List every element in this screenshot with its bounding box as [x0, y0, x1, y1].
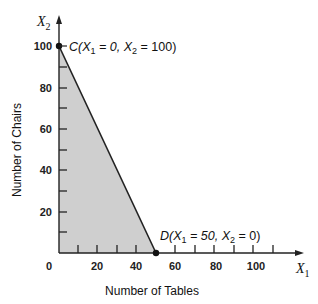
chart: 100 80 60 40 20 0 20 40 60 80 100 X2 X1 … — [0, 0, 318, 304]
point-d-marker — [153, 250, 159, 256]
y-tick-label: 20 — [40, 206, 52, 218]
y-tick-label: 60 — [40, 123, 52, 135]
x-tick-label: 60 — [169, 260, 181, 272]
y-tick-label: 40 — [40, 164, 52, 176]
y-axis-title: Number of Chairs — [10, 103, 24, 197]
x-tick-label: 100 — [247, 260, 265, 272]
point-c-label: C(X1 = 0, X2 = 100) — [69, 40, 176, 56]
y-axis-symbol: X2 — [36, 14, 51, 32]
x-axis-symbol: X1 — [295, 261, 310, 279]
x-tick-label: 20 — [91, 260, 103, 272]
x-tick-label: 40 — [130, 260, 142, 272]
y-axis-arrow-icon — [56, 15, 62, 24]
x-tick-label: 80 — [210, 260, 222, 272]
origin-label: 0 — [46, 260, 52, 272]
y-tick-label: 80 — [40, 82, 52, 94]
x-axis-title: Number of Tables — [105, 284, 199, 298]
x-axis-arrow-icon — [295, 250, 304, 256]
y-tick-label: 100 — [34, 40, 52, 52]
point-d-label: D(X1 = 50, X2 = 0) — [160, 229, 260, 245]
